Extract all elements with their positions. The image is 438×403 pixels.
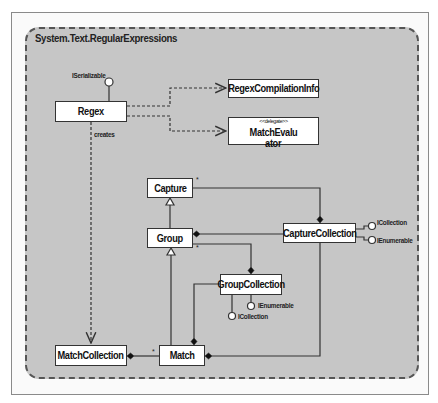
label-ienumerable: IEnumerable	[377, 236, 412, 245]
label-icollection: ICollection	[377, 218, 407, 227]
composition-diamond-icon	[317, 216, 323, 223]
class-matchevaluator-name-2: ator	[265, 138, 281, 149]
icollection-lollipop-icon	[229, 313, 236, 320]
class-groupcollection-name: GroupCollection	[217, 279, 284, 290]
group-to-groupcollection-line	[193, 244, 251, 267]
composition-diamond-icon	[248, 267, 254, 274]
groupcollection-to-match-line	[194, 284, 220, 338]
label-ienumerable: IEnumerable	[258, 301, 293, 310]
class-matchcollection[interactable]: MatchCollection	[55, 345, 127, 366]
class-match-name: Match	[170, 350, 195, 361]
ienumerable-lollipop-icon	[248, 303, 255, 310]
class-group[interactable]: Group	[147, 228, 193, 248]
generalization-arrow-icon	[167, 248, 175, 255]
class-capturecollection[interactable]: CaptureCollection	[283, 223, 356, 243]
regex-to-matchevaluator-dependency	[127, 116, 226, 131]
class-regex[interactable]: Regex	[55, 101, 127, 122]
class-groupcollection[interactable]: GroupCollection	[220, 274, 282, 295]
composition-diamond-icon	[205, 353, 212, 359]
iserializable-lollipop-icon	[105, 78, 113, 86]
multiplicity-capture: *	[196, 176, 199, 183]
composition-diamond-icon	[193, 231, 200, 237]
cc-ienumerable-stem	[356, 237, 369, 240]
capturecollection-to-match-line	[212, 243, 320, 356]
class-regex-name: Regex	[78, 106, 104, 117]
connectors	[0, 0, 438, 403]
regex-to-compilationinfo-dependency	[127, 88, 226, 106]
class-matchcollection-name: MatchCollection	[58, 350, 124, 361]
multiplicity-match: *	[152, 348, 155, 355]
label-icollection: ICollection	[238, 312, 268, 321]
capture-to-capturecollection-line	[193, 188, 320, 216]
stereotype-delegate: <<delegate>>	[259, 118, 287, 124]
class-capture[interactable]: Capture	[147, 178, 193, 198]
composition-diamond-icon	[191, 338, 197, 345]
class-regexcompilationinfo-name: RegexCompilationInfo	[228, 83, 319, 94]
generalization-arrow-icon	[166, 198, 174, 205]
class-capturecollection-name: CaptureCollection	[283, 228, 357, 239]
ienumerable-lollipop-icon	[369, 237, 376, 244]
cc-icollection-stem	[356, 226, 369, 229]
composition-diamond-icon	[127, 353, 134, 359]
class-match[interactable]: Match	[159, 345, 205, 366]
icollection-lollipop-icon	[369, 223, 376, 230]
multiplicity-group: *	[196, 244, 199, 251]
class-group-name: Group	[157, 233, 183, 244]
class-matchevaluator[interactable]: <<delegate>> MatchEvalu ator	[228, 117, 319, 145]
class-regexcompilationinfo[interactable]: RegexCompilationInfo	[228, 79, 319, 98]
label-iserializable: ISerializable	[72, 71, 106, 80]
label-creates: creates	[94, 130, 115, 139]
class-capture-name: Capture	[154, 183, 186, 194]
